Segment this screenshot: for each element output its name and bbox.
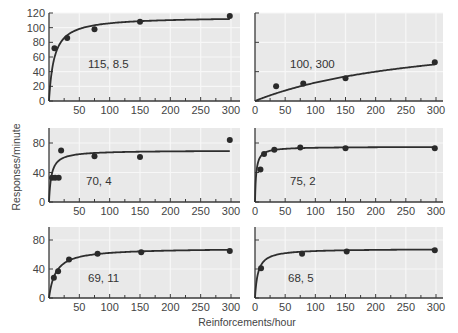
x-tick-label: 300 xyxy=(427,301,445,313)
y-tick-label: 0 xyxy=(39,196,45,208)
panel-bottom-right: 05010015020025030068, 5 xyxy=(252,227,445,313)
data-point xyxy=(92,153,98,159)
data-point xyxy=(138,249,144,255)
x-tick-label: 50 xyxy=(279,301,291,313)
panel-background xyxy=(49,128,240,202)
x-tick-label: 250 xyxy=(397,205,415,217)
x-tick-label: 200 xyxy=(366,205,384,217)
x-tick-label: 200 xyxy=(366,301,384,313)
data-point xyxy=(261,151,267,157)
data-point xyxy=(227,13,233,19)
panel-top-right: 050100150200250300100, 300 xyxy=(252,13,445,116)
y-tick-label: 40 xyxy=(33,263,45,275)
panel-background xyxy=(255,13,443,101)
panel-top-left: 02040608010012050100150200250300115, 8.5 xyxy=(27,7,241,116)
y-tick-label: 40 xyxy=(33,167,45,179)
x-tick-label: 100 xyxy=(100,104,118,116)
x-tick-label: 50 xyxy=(73,301,85,313)
herrnstein-hyperbola-figure: 02040608010012050100150200250300115, 8.5… xyxy=(0,0,458,333)
data-point xyxy=(92,26,98,32)
x-tick-label: 200 xyxy=(366,104,384,116)
data-point xyxy=(64,35,70,41)
fit-parameters-label: 115, 8.5 xyxy=(88,58,129,70)
fit-parameters-label: 70, 4 xyxy=(86,175,112,187)
x-tick-label: 150 xyxy=(336,104,354,116)
data-point xyxy=(432,145,438,151)
x-tick-label: 200 xyxy=(161,104,179,116)
data-point xyxy=(344,249,350,255)
x-tick-label: 300 xyxy=(222,104,240,116)
x-tick-label: 150 xyxy=(336,301,354,313)
x-tick-label: 250 xyxy=(191,104,209,116)
data-point xyxy=(300,80,306,86)
data-point xyxy=(95,251,101,257)
fit-parameters-label: 69, 11 xyxy=(88,272,119,284)
data-point xyxy=(271,147,277,153)
x-tick-label: 300 xyxy=(427,205,445,217)
x-tick-label: 200 xyxy=(161,301,179,313)
x-tick-label: 50 xyxy=(279,205,291,217)
x-axis-title: Reinforcements/hour xyxy=(198,316,296,328)
fit-parameters-label: 68, 5 xyxy=(288,272,314,284)
data-point xyxy=(432,247,438,253)
y-tick-label: 40 xyxy=(33,66,45,78)
panel-background xyxy=(255,227,443,298)
y-tick-label: 120 xyxy=(27,7,45,19)
data-point xyxy=(58,147,64,153)
y-tick-label: 80 xyxy=(33,36,45,48)
panel-middle-left: 040805010015020025030070, 4 xyxy=(33,128,240,217)
x-tick-label: 250 xyxy=(191,205,209,217)
x-tick-label: 150 xyxy=(131,301,149,313)
x-tick-label: 0 xyxy=(252,205,258,217)
y-tick-label: 20 xyxy=(33,80,45,92)
y-tick-label: 80 xyxy=(33,137,45,149)
data-point xyxy=(227,248,233,254)
x-tick-label: 50 xyxy=(279,104,291,116)
data-point xyxy=(343,75,349,81)
x-tick-label: 200 xyxy=(161,205,179,217)
data-point xyxy=(137,19,143,25)
x-tick-label: 250 xyxy=(397,301,415,313)
data-point xyxy=(56,175,62,181)
y-tick-label: 100 xyxy=(27,22,45,34)
x-tick-label: 50 xyxy=(73,104,85,116)
x-tick-label: 0 xyxy=(252,104,258,116)
data-point xyxy=(55,268,61,274)
data-point xyxy=(66,257,72,263)
x-tick-label: 50 xyxy=(73,205,85,217)
data-point xyxy=(137,154,143,160)
y-tick-label: 60 xyxy=(33,51,45,63)
data-point xyxy=(273,83,279,89)
panel-background xyxy=(49,227,240,298)
data-point xyxy=(258,265,264,271)
x-tick-label: 100 xyxy=(306,301,324,313)
x-tick-label: 0 xyxy=(252,301,258,313)
y-tick-label: 0 xyxy=(39,292,45,304)
x-tick-label: 150 xyxy=(336,205,354,217)
x-tick-label: 150 xyxy=(131,205,149,217)
x-tick-label: 150 xyxy=(131,104,149,116)
data-point xyxy=(299,251,305,257)
fit-parameters-label: 75, 2 xyxy=(290,175,316,187)
x-tick-label: 100 xyxy=(100,205,118,217)
fit-parameters-label: 100, 300 xyxy=(290,58,335,70)
x-tick-label: 100 xyxy=(306,104,324,116)
x-tick-label: 300 xyxy=(222,301,240,313)
data-point xyxy=(297,144,303,150)
y-axis-title: Responses/minute xyxy=(10,123,22,210)
data-point xyxy=(432,59,438,65)
data-point xyxy=(343,145,349,151)
panel-background xyxy=(255,128,443,202)
data-point xyxy=(227,137,233,143)
x-tick-label: 250 xyxy=(397,104,415,116)
data-point xyxy=(51,45,57,51)
x-tick-label: 300 xyxy=(222,205,240,217)
x-tick-label: 300 xyxy=(427,104,445,116)
panel-middle-right: 05010015020025030075, 2 xyxy=(252,128,445,217)
y-tick-label: 80 xyxy=(33,234,45,246)
x-tick-label: 100 xyxy=(100,301,118,313)
x-tick-label: 250 xyxy=(191,301,209,313)
data-point xyxy=(257,167,263,173)
x-tick-label: 100 xyxy=(306,205,324,217)
data-point xyxy=(51,275,57,281)
